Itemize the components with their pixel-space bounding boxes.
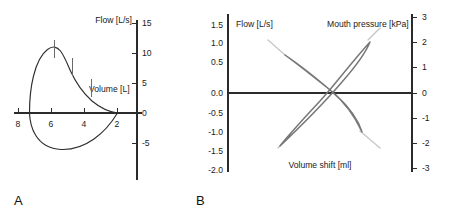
panel-b-right-tick-label: -2: [422, 138, 430, 148]
panel-b-pressure-loop-fade: [368, 28, 380, 40]
panel-b-left-tick-label: -2.0: [208, 165, 223, 175]
panel-b-right-tick-label: 0: [422, 88, 427, 98]
panel-a-y-tick-label: 15: [142, 18, 152, 28]
panel-a-letter: A: [14, 193, 23, 208]
panel-a-y-tick-label: -5: [142, 138, 150, 148]
panel-b-left-tick-label: -0.5: [208, 108, 223, 118]
panel-a-x-tick-label: 2: [115, 119, 120, 129]
panel-a-curve-tickmarks: [55, 40, 92, 97]
panel-b-right-tick-label: -3: [422, 163, 430, 173]
panel-a-expiratory-limb: [30, 47, 118, 113]
panel-b-x-axis-title: Volume shift [ml]: [288, 160, 351, 170]
panel-b-right-axis-title: Mouth pressure [kPa]: [327, 19, 409, 29]
panel-a-y-tick-label: 0: [142, 108, 147, 118]
panel-b-right-tick-label: 1: [422, 62, 427, 72]
panel-b-right-ticks: 3 2 1 0 -1 -2 -3: [412, 12, 430, 173]
panel-b-plot: 1.5 1.0 0.5 0.0 -0.5 -1.0 -1.5 -2.0 3 2: [190, 0, 453, 190]
panel-b-left-tick-label: 0.5: [211, 57, 223, 67]
panel-a-x-tick-label: 4: [82, 119, 87, 129]
panel-b-left-tick-label: -1.0: [208, 127, 223, 137]
panel-b-right-tick-label: -1: [422, 113, 430, 123]
panel-a-x-tick-label: 8: [16, 119, 21, 129]
panel-a-y-tick-label: 5: [142, 78, 147, 88]
panel-a-plot: 15 10 5 0 -5 8 6 4 2 Flow [L/s] Volume […: [0, 0, 200, 190]
panel-b-left-axis-title: Flow [L/s]: [236, 19, 273, 29]
panel-b-left-tick-label: 1.0: [211, 38, 223, 48]
panel-b-letter: B: [196, 193, 205, 208]
panel-b-left-tick-label: 0.0: [211, 88, 223, 98]
panel-b-left-ticks: 1.5 1.0 0.5 0.0 -0.5 -1.0 -1.5 -2.0: [208, 20, 223, 175]
panel-a-x-tick-label: 6: [49, 119, 54, 129]
panel-b-flow-pressure-plot: 1.5 1.0 0.5 0.0 -0.5 -1.0 -1.5 -2.0 3 2: [190, 0, 453, 212]
panel-a-y-axis-title: Flow [L/s]: [95, 15, 132, 25]
panel-b-flow-loop-fade: [268, 40, 285, 55]
panel-a-inspiratory-limb: [30, 113, 118, 150]
panel-a-x-axis-title: Volume [L]: [89, 84, 130, 94]
panel-a-y-tick-label: 10: [142, 48, 152, 58]
panel-b-flow-loop-fade: [360, 131, 380, 148]
panel-a-y-ticks: 15 10 5 0 -5: [132, 18, 152, 148]
panel-b-left-tick-label: 1.5: [211, 20, 223, 30]
panel-b-right-tick-label: 2: [422, 37, 427, 47]
figure-container: 15 10 5 0 -5 8 6 4 2 Flow [L/s] Volume […: [0, 0, 453, 212]
panel-b-right-tick-label: 3: [422, 12, 427, 22]
panel-b-left-tick-label: -1.5: [208, 146, 223, 156]
panel-b-pressure-loop: [280, 42, 370, 146]
panel-a-flow-volume-loop: 15 10 5 0 -5 8 6 4 2 Flow [L/s] Volume […: [0, 0, 200, 212]
